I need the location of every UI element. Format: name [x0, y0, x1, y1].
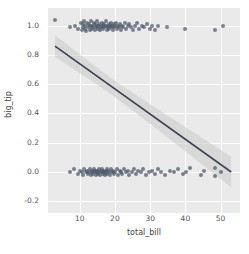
- scatter-point: [126, 169, 130, 173]
- plot-area: [48, 8, 240, 213]
- y-tick-label: 0.0: [0, 168, 39, 176]
- y-tick-label: -0.2: [0, 197, 39, 205]
- regression-line: [55, 46, 231, 172]
- scatter-point: [135, 21, 139, 25]
- x-tick-label: 40: [170, 215, 200, 223]
- scatter-point: [213, 166, 217, 170]
- x-tick-label: 50: [206, 215, 236, 223]
- x-axis-label: total_bill: [48, 228, 240, 237]
- scatter-point: [202, 169, 206, 173]
- scatter-point: [132, 167, 136, 171]
- scatter-point: [153, 172, 157, 176]
- scatter-point: [131, 28, 135, 32]
- y-tick-label: 1.0: [0, 22, 39, 30]
- scatter-point: [183, 27, 187, 31]
- scatter-point: [199, 173, 203, 177]
- scatter-point: [150, 24, 154, 28]
- scatter-point: [145, 22, 149, 26]
- regression-plot-figure: -0.20.00.20.40.60.81.0 1020304050 total_…: [0, 0, 249, 254]
- scatter-point: [168, 169, 172, 173]
- scatter-point: [188, 166, 192, 170]
- scatter-point: [68, 25, 72, 29]
- y-tick-label: 0.8: [0, 51, 39, 59]
- confidence-band: [55, 35, 231, 187]
- scatter-point: [156, 24, 160, 28]
- y-axis-label: big_tip: [4, 75, 13, 135]
- scatter-point: [172, 170, 176, 174]
- y-tick-label: 0.2: [0, 139, 39, 147]
- x-tick-label: 30: [135, 215, 165, 223]
- x-tick-label: 20: [100, 215, 130, 223]
- x-tick-label: 10: [65, 215, 95, 223]
- regression-fit: [48, 8, 240, 213]
